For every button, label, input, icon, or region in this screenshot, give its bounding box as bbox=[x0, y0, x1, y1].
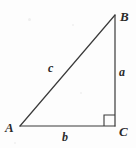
side-label-b: b bbox=[62, 131, 68, 143]
vertex-label-c: C bbox=[119, 125, 128, 138]
side-label-a: a bbox=[119, 66, 125, 78]
vertex-label-b: B bbox=[120, 10, 129, 23]
right-angle-marker bbox=[104, 115, 115, 126]
vertex-label-a: A bbox=[5, 121, 14, 134]
triangle-drawing bbox=[0, 0, 136, 148]
side-c-hypotenuse-line bbox=[20, 15, 115, 126]
side-label-c: c bbox=[48, 62, 53, 74]
triangle-figure: A B C a b c bbox=[0, 0, 136, 148]
